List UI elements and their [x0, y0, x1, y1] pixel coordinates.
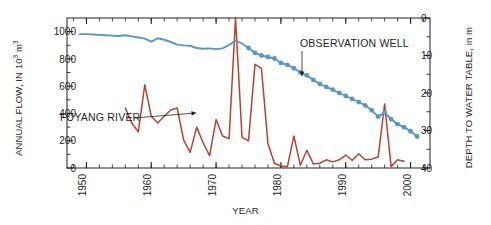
- y-axis-left-title-exp1: 3: [12, 55, 19, 59]
- series-marker: [382, 110, 387, 115]
- y-tick-label: 20: [421, 88, 433, 99]
- x-tick-label: 2000: [402, 174, 413, 197]
- x-tick-label: 1980: [272, 174, 283, 197]
- x-tick-label: 1990: [337, 174, 348, 197]
- series-marker: [311, 77, 316, 82]
- series-marker: [343, 94, 348, 99]
- series-marker: [259, 53, 264, 58]
- x-tick-label: 1960: [142, 174, 153, 197]
- series-marker: [369, 108, 374, 113]
- series-marker: [317, 82, 322, 87]
- y-axis-left-title: ANNUAL FLOW, IN 103 m3: [12, 18, 24, 178]
- y-axis-left-title-exp2: 3: [12, 40, 19, 44]
- series-marker: [337, 91, 342, 96]
- y-tick-label: 30: [421, 125, 433, 136]
- chart-plot-svg: 1950196019701980199020000200400600800100…: [0, 0, 491, 225]
- y-tick-label: 1000: [54, 26, 77, 37]
- series-marker: [350, 97, 355, 102]
- series-marker: [330, 87, 335, 92]
- y-tick-label: 200: [59, 135, 76, 146]
- series-marker: [304, 73, 309, 78]
- y-tick-label: 0: [70, 163, 76, 174]
- y-tick-label: 10: [421, 50, 433, 61]
- series-marker: [415, 134, 420, 139]
- series-marker: [356, 100, 361, 105]
- series-marker: [389, 117, 394, 122]
- x-tick-label: 1970: [207, 174, 218, 197]
- series-marker: [279, 61, 284, 66]
- annotation-arrowhead: [191, 111, 196, 116]
- y-tick-label: 800: [59, 54, 76, 65]
- y-axis-left-title-text: ANNUAL FLOW, IN 10: [13, 58, 24, 156]
- annotation-label-fuyang-river: FUYANG RIVER: [60, 111, 141, 123]
- series-marker: [246, 46, 251, 51]
- y-axis-right-title: DEPTH TO WATER TABLE, in m: [463, 18, 474, 178]
- y-axis-left-title-unit: m: [13, 44, 24, 55]
- series-marker: [402, 125, 407, 130]
- series-marker: [324, 85, 329, 90]
- series-marker: [266, 55, 271, 60]
- annotation-leader: [134, 113, 196, 118]
- series-marker: [253, 50, 258, 55]
- series-marker: [408, 129, 413, 134]
- x-tick-label: 1950: [77, 174, 88, 197]
- series-marker: [376, 114, 381, 119]
- series-marker: [285, 62, 290, 67]
- series-marker: [363, 103, 368, 108]
- y-tick-label: 40: [421, 163, 433, 174]
- y-tick-label: 0: [421, 13, 427, 24]
- series-marker: [272, 56, 277, 61]
- annotation-label-observation-well: OBSERVATION WELL: [300, 37, 409, 49]
- y-tick-label: 600: [59, 81, 76, 92]
- series-marker: [395, 122, 400, 127]
- x-axis-title: YEAR: [0, 205, 491, 216]
- series-marker: [291, 66, 296, 71]
- chart-figure: 1950196019701980199020000200400600800100…: [0, 0, 491, 225]
